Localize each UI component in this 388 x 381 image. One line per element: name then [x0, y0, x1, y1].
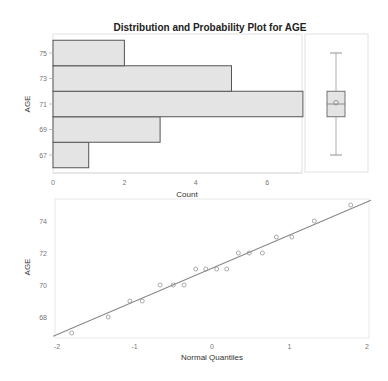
tick-label: 68 — [39, 314, 47, 321]
tick-label: 0 — [51, 179, 55, 186]
histogram-y-label: AGE — [23, 96, 32, 113]
tick-label: -1 — [131, 343, 137, 350]
qq-x-label: Normal Quantiles — [181, 353, 243, 362]
histogram-bars — [53, 40, 303, 168]
data-point — [158, 283, 162, 287]
histogram-bar — [53, 142, 89, 168]
tick-label: 4 — [194, 179, 198, 186]
qq-y-label: AGE — [23, 259, 32, 276]
histogram-y-ticks: 6769717375 — [39, 50, 53, 159]
histogram-bar — [53, 40, 124, 66]
data-point — [140, 299, 144, 303]
tick-label: 74 — [39, 218, 47, 225]
histogram-bar — [53, 117, 160, 143]
boxplot — [327, 53, 345, 155]
data-point — [194, 267, 198, 271]
data-point — [236, 251, 240, 255]
histogram-x-label: Count — [176, 190, 198, 199]
tick-label: 73 — [39, 75, 47, 82]
tick-label: 72 — [39, 250, 47, 257]
tick-label: 71 — [39, 101, 47, 108]
data-point — [225, 267, 229, 271]
qq-reference-line — [53, 200, 371, 336]
tick-label: 2 — [122, 179, 126, 186]
data-point — [128, 299, 132, 303]
data-point — [274, 235, 278, 239]
tick-label: 69 — [39, 126, 47, 133]
data-point — [106, 315, 110, 319]
qq-x-ticks: -2-1012 — [54, 343, 369, 350]
data-point — [215, 267, 219, 271]
histogram-bar — [53, 91, 303, 117]
tick-label: 6 — [265, 179, 269, 186]
tick-label: 2 — [365, 343, 369, 350]
chart-title: Distribution and Probability Plot for AG… — [114, 22, 307, 33]
qq-y-ticks: 68707274 — [39, 218, 47, 321]
tick-label: -2 — [54, 343, 60, 350]
data-point — [182, 283, 186, 287]
data-point — [312, 219, 316, 223]
histogram-x-ticks: 0246 — [51, 173, 302, 186]
histogram-bar — [53, 66, 232, 92]
tick-label: 0 — [210, 343, 214, 350]
tick-label: 75 — [39, 50, 47, 57]
tick-label: 70 — [39, 282, 47, 289]
reference-line — [53, 200, 371, 336]
tick-label: 1 — [288, 343, 292, 350]
figure: Distribution and Probability Plot for AG… — [0, 0, 388, 381]
data-point — [260, 251, 264, 255]
data-point — [290, 235, 294, 239]
tick-label: 67 — [39, 152, 47, 159]
data-point — [70, 331, 74, 335]
data-point — [349, 203, 353, 207]
